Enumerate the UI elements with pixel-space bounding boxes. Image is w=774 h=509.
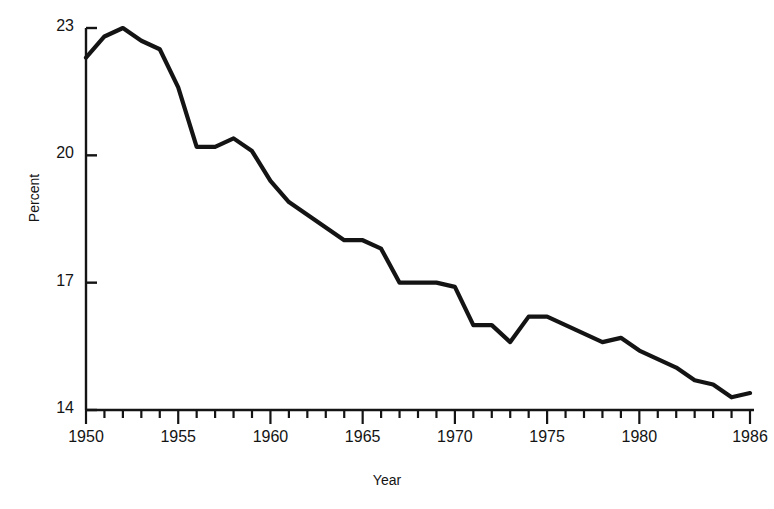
y-tick-label: 20 bbox=[40, 144, 74, 162]
x-tick-label: 1975 bbox=[512, 428, 582, 446]
x-tick-label: 1970 bbox=[420, 428, 490, 446]
x-tick-label: 1955 bbox=[143, 428, 213, 446]
axes-group bbox=[86, 28, 754, 410]
data-series-line bbox=[86, 28, 750, 397]
x-axis-title: Year bbox=[0, 472, 774, 488]
chart-figure: Percent Year 14172023 195019551960196519… bbox=[0, 0, 774, 509]
y-tick-marks bbox=[86, 28, 97, 410]
x-tick-label: 1965 bbox=[328, 428, 398, 446]
y-tick-label: 23 bbox=[40, 17, 74, 35]
y-axis-title: Percent bbox=[26, 158, 42, 238]
x-tick-label: 1960 bbox=[235, 428, 305, 446]
y-tick-label: 14 bbox=[40, 399, 74, 417]
x-tick-marks bbox=[86, 410, 750, 424]
x-tick-label: 1980 bbox=[604, 428, 674, 446]
x-tick-label: 1986 bbox=[715, 428, 774, 446]
x-tick-label: 1950 bbox=[51, 428, 121, 446]
y-tick-label: 17 bbox=[40, 272, 74, 290]
